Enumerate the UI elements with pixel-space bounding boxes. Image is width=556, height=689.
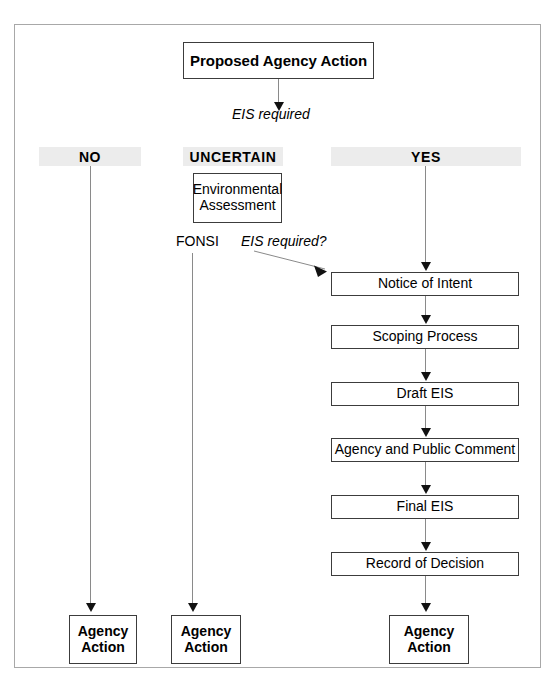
diagram-frame: Proposed Agency Action EIS required NO U… <box>14 24 541 668</box>
node-agency-action-uncertain: Agency Action <box>171 615 241 664</box>
node-label-line2: Action <box>407 640 451 656</box>
node-label-line2: Action <box>81 640 125 656</box>
connector-record-to-outcome <box>425 576 426 606</box>
connector-yes-header-to-notice <box>425 166 426 263</box>
connector-notice-to-scoping <box>425 296 426 316</box>
arrowhead-final-to-record <box>421 542 431 551</box>
connector-final-to-record <box>425 519 426 543</box>
node-label-line1: Agency <box>78 624 129 640</box>
connector-draft-to-comment <box>425 406 426 429</box>
node-scoping-process: Scoping Process <box>331 325 519 349</box>
arrowhead-scoping-to-draft <box>421 372 431 381</box>
node-label: Draft EIS <box>397 386 454 402</box>
node-label: Agency and Public Comment <box>335 442 516 458</box>
node-agency-action-yes: Agency Action <box>389 615 469 664</box>
node-label: Record of Decision <box>366 556 484 572</box>
node-label: Final EIS <box>397 499 454 515</box>
connector-scoping-to-draft <box>425 349 426 373</box>
node-label-line2: Action <box>184 640 228 656</box>
node-record-of-decision: Record of Decision <box>331 552 519 576</box>
node-label-line1: Agency <box>404 624 455 640</box>
node-agency-action-no: Agency Action <box>69 615 137 664</box>
arrowhead-draft-to-comment <box>421 428 431 437</box>
node-label: Scoping Process <box>372 329 477 345</box>
node-draft-eis: Draft EIS <box>331 382 519 406</box>
node-label-line1: Agency <box>181 624 232 640</box>
arrowhead-notice-to-scoping <box>421 315 431 324</box>
node-label: Notice of Intent <box>378 276 472 292</box>
arrowhead-yes-header-to-notice <box>421 262 431 271</box>
connector-comment-to-final <box>425 462 426 486</box>
arrowhead-record-to-outcome <box>421 603 431 612</box>
node-final-eis: Final EIS <box>331 495 519 519</box>
node-agency-and-public-comment: Agency and Public Comment <box>331 438 519 462</box>
node-notice-of-intent: Notice of Intent <box>331 272 519 296</box>
arrowhead-comment-to-final <box>421 485 431 494</box>
